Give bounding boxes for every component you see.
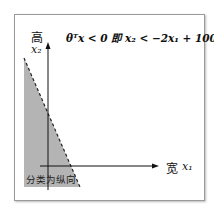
x-axis-arrow-icon [152,164,159,169]
x-axis-label-cn: 宽 [166,159,178,176]
equation: θᵀx < 0 即 x₂ < −2x₁ + 100 [66,30,214,45]
region-label: 分类为纵向 [26,172,76,186]
y-axis-arrow-icon [46,42,51,49]
y-axis-var: x₂ [31,43,42,56]
x-axis-var: x₁ [182,160,193,173]
